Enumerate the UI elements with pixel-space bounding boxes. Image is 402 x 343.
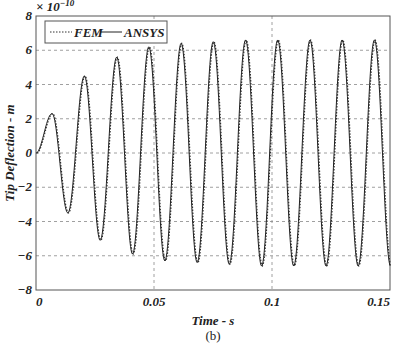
legend-ansys-label: ANSYS xyxy=(123,25,164,40)
grid-lines xyxy=(36,16,390,290)
chart: −8−6−4−202468 00.050.10.15 FEM ANSYS × 1… xyxy=(0,0,402,343)
x-tick-label: 0.15 xyxy=(367,294,390,309)
figure-caption: (b) xyxy=(205,328,220,343)
x-axis-ticks: 00.050.10.15 xyxy=(36,294,391,309)
y-tick-label: −6 xyxy=(18,248,33,263)
y-tick-label: 8 xyxy=(26,8,33,23)
legend-fem-label: FEM xyxy=(73,25,103,40)
legend: FEM ANSYS xyxy=(45,21,167,43)
x-axis-label: Time - s xyxy=(192,313,235,328)
y-multiplier: × 10−10 xyxy=(36,0,75,14)
y-tick-label: −8 xyxy=(18,282,33,297)
y-axis-label: Tip Deflection - m xyxy=(2,104,17,201)
y-tick-label: 6 xyxy=(26,42,33,57)
x-tick-label: 0 xyxy=(36,294,43,309)
y-tick-label: −2 xyxy=(18,179,33,194)
y-tick-label: 0 xyxy=(26,145,33,160)
x-tick-label: 0.05 xyxy=(143,294,166,309)
y-tick-label: −4 xyxy=(18,214,33,229)
y-tick-label: 2 xyxy=(25,111,33,126)
y-axis-ticks: −8−6−4−202468 xyxy=(18,8,33,297)
x-tick-label: 0.1 xyxy=(264,294,280,309)
y-tick-label: 4 xyxy=(25,77,33,92)
